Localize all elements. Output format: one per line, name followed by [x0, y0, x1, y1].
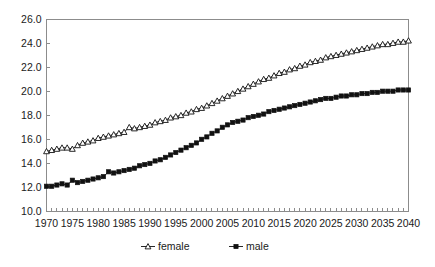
data-point-marker — [267, 110, 271, 114]
x-tick-label: 2000 — [190, 217, 214, 229]
x-tick-label: 1980 — [87, 217, 111, 229]
data-point-marker — [158, 158, 162, 162]
data-point-marker — [143, 162, 147, 166]
data-point-marker — [344, 94, 348, 98]
data-point-marker — [55, 183, 59, 187]
data-point-marker — [132, 166, 136, 170]
data-point-marker — [324, 96, 328, 100]
legend-entry-female[interactable]: female — [141, 240, 190, 252]
data-point-marker — [225, 123, 229, 127]
chart-container: 10.012.014.016.018.020.022.024.026.0 197… — [0, 0, 435, 267]
y-tick-label: 24.0 — [21, 37, 42, 49]
data-point-marker — [122, 168, 126, 172]
data-point-marker — [329, 96, 333, 100]
data-point-marker — [231, 120, 235, 124]
data-point-marker — [287, 105, 291, 109]
data-point-marker — [334, 95, 338, 99]
data-point-marker — [106, 170, 110, 174]
data-point-marker — [215, 129, 219, 133]
data-point-marker — [65, 183, 69, 187]
y-tick-label: 12.0 — [21, 181, 42, 193]
data-point-marker — [406, 38, 412, 43]
x-tick-label: 2035 — [371, 217, 395, 229]
data-point-marker — [251, 114, 255, 118]
data-point-marker — [210, 131, 214, 135]
chart-legend: femalemale — [141, 240, 269, 252]
y-tick-label: 14.0 — [21, 157, 42, 169]
x-tick-label: 1985 — [112, 217, 136, 229]
x-tick-label: 2025 — [319, 217, 343, 229]
legend-label: male — [246, 240, 269, 252]
data-point-marker — [153, 159, 157, 163]
data-point-marker — [241, 118, 245, 122]
data-point-marker — [44, 184, 48, 188]
data-point-marker — [282, 106, 286, 110]
data-point-marker — [355, 93, 359, 97]
data-point-marker — [308, 100, 312, 104]
data-point-marker — [277, 107, 281, 111]
x-tick-label: 2020 — [293, 217, 317, 229]
data-point-marker — [375, 90, 379, 94]
data-point-marker — [194, 141, 198, 145]
data-point-marker — [220, 125, 224, 129]
data-point-marker — [50, 184, 54, 188]
y-tick-label: 10.0 — [21, 205, 42, 217]
data-point-marker — [370, 90, 374, 94]
data-point-marker — [148, 161, 152, 165]
data-point-marker — [70, 178, 74, 182]
legend-label: female — [158, 240, 190, 252]
data-point-marker — [81, 179, 85, 183]
data-point-marker — [234, 244, 238, 248]
data-point-marker — [126, 124, 132, 129]
plot-frame — [47, 19, 409, 212]
data-series-group — [44, 38, 412, 189]
data-point-marker — [293, 104, 297, 108]
data-point-marker — [184, 146, 188, 150]
line-chart: 10.012.014.016.018.020.022.024.026.0 197… — [0, 0, 435, 267]
data-point-marker — [339, 94, 343, 98]
data-point-marker — [174, 150, 178, 154]
data-point-marker — [365, 91, 369, 95]
data-point-marker — [96, 176, 100, 180]
data-point-marker — [179, 148, 183, 152]
data-point-marker — [236, 119, 240, 123]
data-point-marker — [360, 91, 364, 95]
x-tick-label: 2040 — [397, 217, 421, 229]
data-point-marker — [60, 182, 64, 186]
data-point-marker — [200, 137, 204, 141]
data-point-marker — [189, 143, 193, 147]
y-tick-label: 22.0 — [21, 61, 42, 73]
legend-entry-male[interactable]: male — [229, 240, 269, 252]
data-point-marker — [313, 99, 317, 103]
x-tick-label: 2010 — [242, 217, 266, 229]
data-point-marker — [406, 88, 410, 92]
x-tick-label: 1975 — [61, 217, 85, 229]
x-tick-label: 1995 — [164, 217, 188, 229]
data-point-marker — [169, 153, 173, 157]
x-tick-label: 2015 — [268, 217, 292, 229]
x-tick-label: 1990 — [138, 217, 162, 229]
data-point-marker — [262, 112, 266, 116]
data-point-marker — [272, 108, 276, 112]
y-tick-label: 16.0 — [21, 133, 42, 145]
data-point-marker — [401, 88, 405, 92]
y-tick-label: 20.0 — [21, 85, 42, 97]
data-point-marker — [75, 181, 79, 185]
y-tick-label: 26.0 — [21, 13, 42, 25]
x-tick-label: 2005 — [216, 217, 240, 229]
x-tick-label: 2030 — [345, 217, 369, 229]
data-point-marker — [205, 135, 209, 139]
data-point-marker — [117, 170, 121, 174]
data-point-marker — [163, 155, 167, 159]
data-point-marker — [298, 102, 302, 106]
data-point-marker — [256, 113, 260, 117]
data-point-marker — [396, 88, 400, 92]
x-tick-label: 1970 — [35, 217, 59, 229]
data-point-marker — [303, 101, 307, 105]
data-point-marker — [127, 167, 131, 171]
data-point-marker — [112, 171, 116, 175]
data-point-marker — [350, 93, 354, 97]
y-tick-label: 18.0 — [21, 109, 42, 121]
data-point-marker — [391, 89, 395, 93]
data-point-marker — [246, 116, 250, 120]
